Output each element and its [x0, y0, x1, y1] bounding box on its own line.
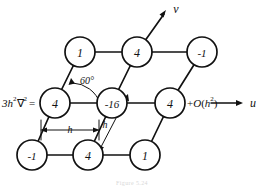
node-mid-left: 4	[40, 88, 70, 118]
u-axis-label: u	[250, 96, 256, 110]
node-bot-right: 1	[130, 140, 160, 170]
dim-h-diagonal-label: h	[103, 119, 108, 130]
right-error-label: +O(h2)	[187, 95, 218, 110]
v-axis-label: v	[173, 2, 179, 16]
right-error-text: +O(h2)	[187, 95, 218, 110]
dimension-h-horizontal: h	[40, 120, 100, 140]
node-value: 4	[134, 46, 140, 60]
node-mid-right: 4	[155, 88, 185, 118]
node-bot-mid: 4	[73, 140, 103, 170]
u-axis-arrowhead	[236, 100, 243, 106]
node-top-left: 1	[65, 37, 95, 67]
node-value: -16	[105, 98, 120, 110]
v-axis-arrowhead	[160, 10, 167, 18]
node-center: -16	[97, 88, 127, 118]
angle-annotation: 60°	[69, 75, 101, 104]
node-value: 1	[77, 46, 83, 60]
node-top-right: -1	[187, 37, 217, 67]
node-value: 4	[52, 97, 58, 111]
node-value: 4	[167, 97, 173, 111]
left-operator-label: 3h2∇2=	[1, 95, 35, 109]
node-value: -1	[27, 150, 36, 162]
node-top-mid: 4	[122, 37, 152, 67]
angle-arc-arrowhead	[69, 78, 76, 85]
figure-caption: Figure 5.24	[0, 180, 264, 186]
left-operator-text: 3h2∇2=	[1, 95, 35, 109]
node-value: -1	[197, 47, 206, 59]
node-value: 1	[142, 149, 148, 163]
stencil-figure: v u 60° h h 1 4 -1	[0, 0, 264, 186]
node-value: 4	[85, 149, 91, 163]
node-bot-left: -1	[17, 140, 47, 170]
angle-arc	[73, 83, 100, 103]
angle-label: 60°	[80, 75, 94, 86]
dim-h-horizontal-label: h	[68, 124, 73, 135]
